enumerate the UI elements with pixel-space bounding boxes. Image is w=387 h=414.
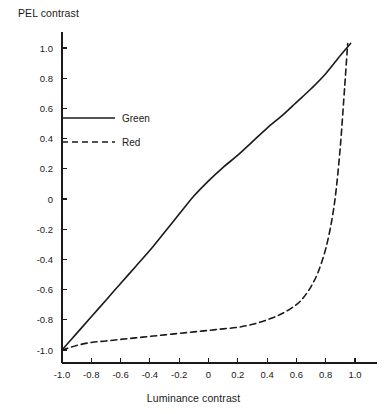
plot-area: 1.00.80.60.40.20-0.2-0.4-0.6-0.8-1.0 -1.… (0, 0, 387, 414)
y-tick-label: -0.4 (37, 254, 53, 265)
x-tick-label: -0.8 (83, 369, 99, 380)
y-tick-label: -0.6 (37, 284, 53, 295)
y-tick-label: 0.4 (40, 133, 53, 144)
x-tick-label: 0 (206, 369, 211, 380)
y-tick-label: -0.2 (37, 224, 53, 235)
y-tick-label: -0.8 (37, 314, 53, 325)
x-tick-label: -0.2 (171, 369, 187, 380)
legend-label-red: Red (122, 137, 140, 148)
series-line-red (62, 43, 348, 350)
y-tick-label: 0 (48, 194, 53, 205)
y-tick-label: 0.8 (40, 73, 53, 84)
x-tick-label: 0.6 (290, 369, 303, 380)
x-tick-label: -1.0 (54, 369, 70, 380)
y-tick-label: 0.6 (40, 103, 53, 114)
x-tick-label: -0.6 (112, 369, 128, 380)
chart-legend: GreenRed (62, 113, 150, 148)
legend-label-green: Green (122, 113, 150, 124)
data-series-group (62, 43, 351, 350)
series-line-green (62, 43, 351, 350)
y-tick-label: 0.2 (40, 163, 53, 174)
chart-figure: PEL contrast Luminance contrast 1.00.80.… (0, 0, 387, 414)
y-tick-label: -1.0 (37, 345, 53, 356)
y-tick-label: 1.0 (40, 43, 53, 54)
x-tick-label: 1.0 (348, 369, 361, 380)
x-axis-ticks: -1.0-0.8-0.6-0.4-0.200.20.40.60.81.0 (54, 358, 362, 380)
x-tick-label: -0.4 (142, 369, 158, 380)
x-tick-label: 0.4 (260, 369, 273, 380)
x-tick-label: 0.2 (231, 369, 244, 380)
x-tick-label: 0.8 (319, 369, 332, 380)
